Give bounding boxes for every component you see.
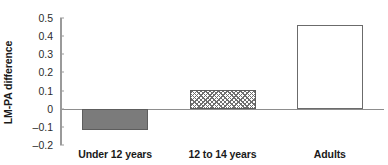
- y-axis-tick-label: 0.1: [38, 85, 53, 97]
- x-axis-category-label: Adults: [314, 148, 346, 160]
- bar-chart: LM-PA difference 0.50.40.30.20.10–0.1–0.…: [0, 0, 388, 165]
- x-axis-category-labels: Under 12 years12 to 14 yearsAdults: [62, 145, 384, 165]
- y-axis-tick-label: 0.4: [38, 30, 53, 42]
- y-axis-tick-mark: [60, 90, 64, 91]
- y-axis-tick-mark: [60, 145, 64, 146]
- y-axis-tick-label: –0.1: [33, 121, 53, 133]
- y-axis-tick-label: 0.5: [38, 12, 53, 24]
- y-axis-tick-mark: [60, 126, 64, 127]
- y-axis-title: LM-PA difference: [0, 0, 16, 165]
- y-axis-tick-mark: [60, 54, 64, 55]
- y-axis-tick-mark: [60, 72, 64, 73]
- y-axis-tick-labels: 0.50.40.30.20.10–0.1–0.2: [18, 18, 56, 145]
- bar: [297, 25, 363, 108]
- y-axis-tick-mark: [60, 108, 64, 109]
- bar: [82, 109, 148, 130]
- x-axis-category-label: 12 to 14 years: [188, 148, 256, 160]
- plot-area: [62, 18, 384, 145]
- x-axis-category-label: Under 12 years: [78, 148, 152, 160]
- y-axis-tick-label: 0.2: [38, 66, 53, 78]
- y-axis-tick-label: 0: [47, 103, 53, 115]
- y-axis-tick-mark: [60, 18, 64, 19]
- y-axis-tick-label: 0.3: [38, 48, 53, 60]
- y-axis-tick-label: –0.2: [33, 139, 53, 151]
- bar: [190, 90, 256, 109]
- y-axis-tick-mark: [60, 36, 64, 37]
